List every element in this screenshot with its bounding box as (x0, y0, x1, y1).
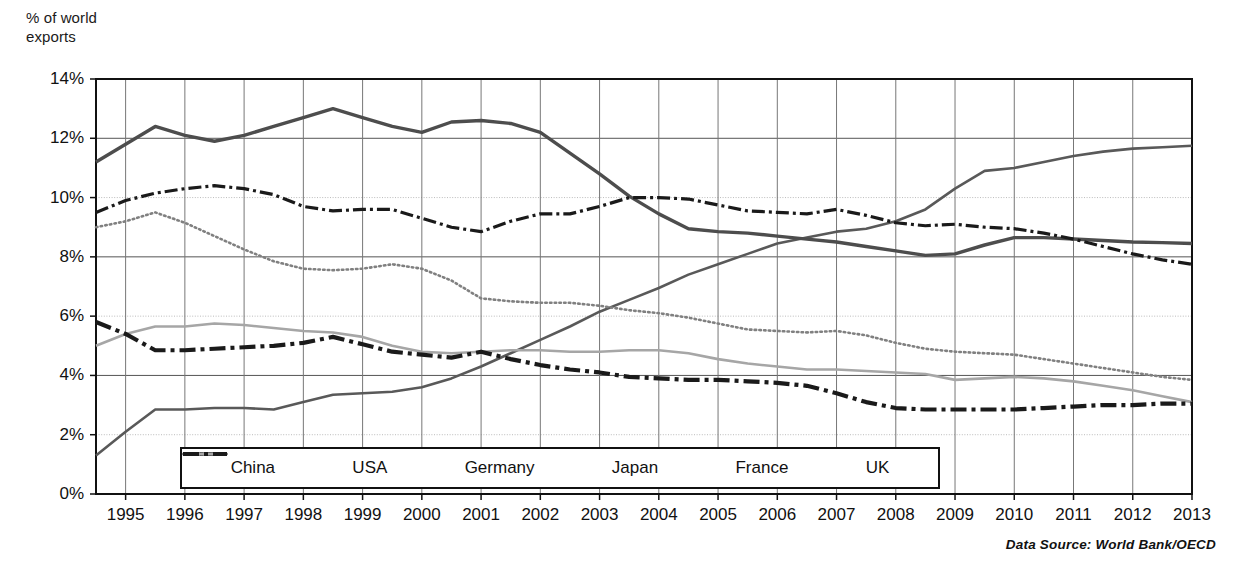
x-axis-label: 2011 (1044, 505, 1104, 525)
x-axis-label: 2005 (688, 505, 748, 525)
line-chart-svg (0, 0, 1252, 580)
x-axis-label: 2006 (747, 505, 807, 525)
x-axis-label: 2013 (1162, 505, 1222, 525)
legend-label: France (735, 458, 788, 478)
legend-label: UK (866, 458, 890, 478)
x-axis-label: 2002 (510, 505, 570, 525)
y-axis-label: 0% (14, 484, 84, 504)
x-axis-label: 2001 (451, 505, 511, 525)
legend-item-japan[interactable]: Japan (612, 458, 658, 478)
legend-label: China (231, 458, 275, 478)
y-axis-label: 6% (14, 306, 84, 326)
y-axis-label: 12% (14, 128, 84, 148)
series-line-usa (96, 109, 1192, 256)
x-axis-label: 1999 (333, 505, 393, 525)
legend-item-china[interactable]: China (231, 458, 275, 478)
legend-item-uk[interactable]: UK (866, 458, 890, 478)
source-note: Data Source: World Bank/OECD (1006, 537, 1216, 552)
legend-item-germany[interactable]: Germany (465, 458, 535, 478)
x-axis-label: 2004 (629, 505, 689, 525)
series-line-uk (96, 322, 1192, 409)
x-axis-label: 1995 (96, 505, 156, 525)
x-axis-label: 2008 (866, 505, 926, 525)
y-axis-label: 2% (14, 425, 84, 445)
y-axis-label: 14% (14, 69, 84, 89)
x-axis-label: 2003 (570, 505, 630, 525)
x-axis-label: 1998 (273, 505, 333, 525)
x-axis-label: 2009 (925, 505, 985, 525)
x-axis-label: 2007 (807, 505, 867, 525)
y-axis-label: 4% (14, 365, 84, 385)
x-axis-label: 2000 (392, 505, 452, 525)
legend-swatch-uk (182, 449, 228, 459)
legend-label: Germany (465, 458, 535, 478)
legend-label: USA (352, 458, 387, 478)
y-axis-label: 10% (14, 188, 84, 208)
legend-label: Japan (612, 458, 658, 478)
chart-legend: ChinaUSAGermanyJapanFranceUK (180, 447, 940, 489)
x-axis-label: 2012 (1103, 505, 1163, 525)
legend-item-usa[interactable]: USA (352, 458, 387, 478)
y-axis-label: 8% (14, 247, 84, 267)
x-axis-label: 1996 (155, 505, 215, 525)
x-axis-label: 1997 (214, 505, 274, 525)
chart-root: % of world exports 0%2%4%6%8%10%12%14% 1… (0, 0, 1252, 580)
series-line-france (96, 324, 1192, 403)
legend-item-france[interactable]: France (735, 458, 788, 478)
x-axis-label: 2010 (984, 505, 1044, 525)
plot-area-border (96, 79, 1192, 494)
